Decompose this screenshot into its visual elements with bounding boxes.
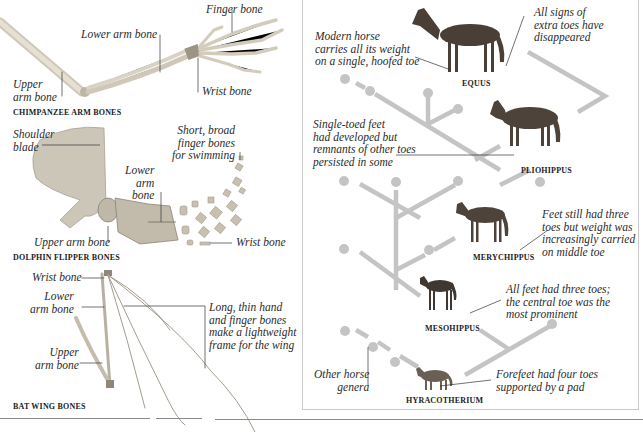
bottom-rule-mid [156, 418, 202, 419]
merychippus-note: Feet still had three toes but weight was… [542, 208, 635, 258]
bottom-rule-right [215, 419, 643, 420]
species-equus: EQUUS [462, 79, 491, 88]
hyracotherium-note: Forefeet had four toes supported by a pa… [496, 368, 598, 393]
species-pliohippus: PLIOHIPPUS [521, 166, 572, 175]
species-merychippus: MERYCHIPPUS [473, 253, 534, 262]
species-hyracotherium: HYRACOTHERIUM [406, 396, 483, 405]
species-mesohippus: MESOHIPPUS [425, 324, 480, 333]
mesohippus-note: All feet had three toes; the central toe… [506, 283, 610, 321]
equus-note: Modern horse carries all its weight on a… [315, 30, 419, 68]
other-horse-genera: Other horse genera [314, 368, 369, 393]
pliohippus-horse-image [490, 100, 560, 146]
hyracotherium-image [416, 367, 453, 390]
equus-horse-image [412, 8, 504, 72]
bottom-rule-left [0, 418, 150, 419]
equus-note-toes: All signs of extra toes have disappeared [534, 6, 604, 44]
merychippus-horse-image [456, 202, 508, 242]
pliohippus-note: Single-toed feet had developed but remna… [313, 118, 416, 168]
mesohippus-horse-image [420, 276, 457, 310]
